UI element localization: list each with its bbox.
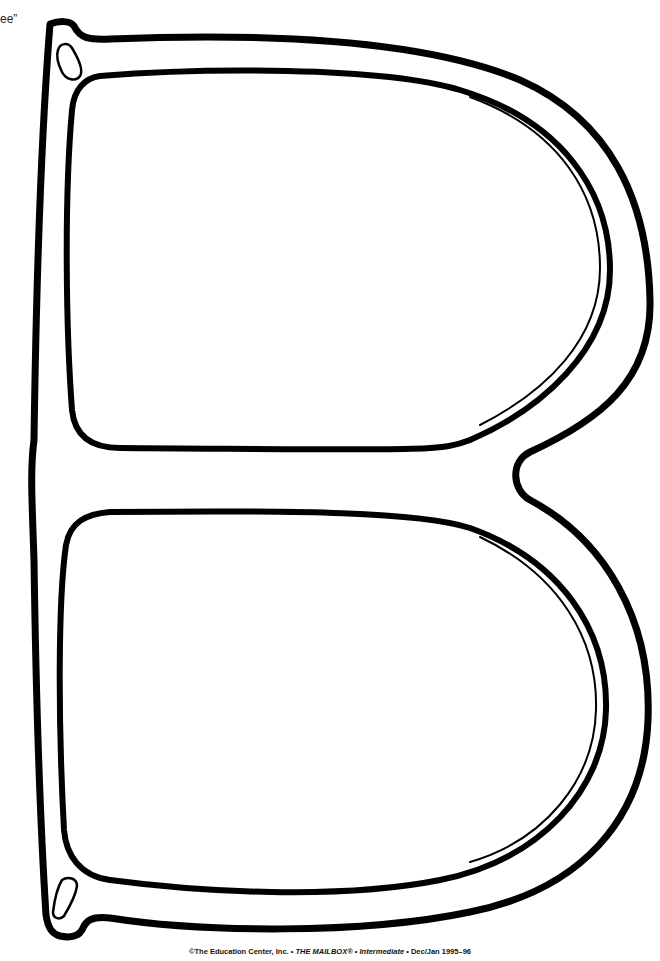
lens-upper-inner — [470, 97, 600, 425]
credit-edition: Intermediate — [360, 947, 405, 956]
credit-publisher: ©The Education Center, Inc. • — [189, 947, 296, 956]
copyright-credit: ©The Education Center, Inc. • THE MAILBO… — [0, 947, 660, 956]
lens-lower — [60, 511, 606, 892]
credit-separator: • — [404, 947, 411, 956]
lens-lower-inner — [470, 537, 596, 862]
nose-pad-bottom — [53, 878, 77, 918]
credit-issue: Dec/Jan 1995–96 — [411, 947, 471, 956]
eyeglasses-outline — [0, 0, 660, 961]
nose-pad-top — [57, 44, 81, 79]
credit-separator: • — [353, 947, 360, 956]
frame-outer — [32, 22, 650, 937]
credit-magazine: THE MAILBOX® — [296, 947, 353, 956]
